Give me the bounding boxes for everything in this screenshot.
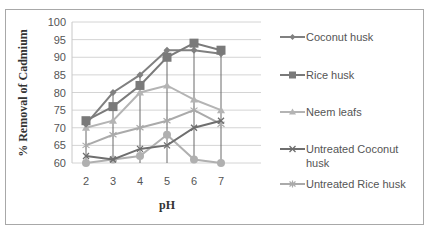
legend-item-neem-leafs: Neem leafs bbox=[280, 106, 362, 118]
series-lines bbox=[82, 39, 226, 167]
svg-text:Rice husk: Rice husk bbox=[306, 69, 355, 81]
y-axis-title: % Removal of Cadmium bbox=[16, 29, 30, 157]
svg-text:Untreated Coconut: Untreated Coconut bbox=[306, 143, 398, 155]
svg-text:husk: husk bbox=[306, 157, 330, 169]
square-marker-icon bbox=[82, 116, 91, 125]
y-tick-label: 75 bbox=[54, 104, 66, 116]
circle-marker-icon bbox=[136, 152, 144, 160]
legend: Coconut husk Rice husk Neem leafs Untrea… bbox=[280, 31, 406, 190]
legend-item-untreated-rice-husk: Untreated Rice husk bbox=[280, 178, 406, 190]
square-marker-icon bbox=[217, 46, 226, 55]
x-axis-ticks: 234567 bbox=[83, 175, 224, 187]
line-chart: 6065707580859095100 234567 pH % Removal … bbox=[0, 0, 431, 235]
circle-marker-icon bbox=[163, 131, 171, 139]
y-tick-label: 100 bbox=[48, 16, 66, 28]
square-marker-icon bbox=[136, 81, 145, 90]
legend-item-rice-husk: Rice husk bbox=[280, 69, 355, 81]
y-tick-label: 60 bbox=[54, 157, 66, 169]
x-tick-label: 4 bbox=[137, 175, 143, 187]
square-marker-icon bbox=[289, 72, 296, 79]
square-marker-icon bbox=[109, 102, 118, 111]
diamond-marker-icon bbox=[191, 47, 198, 54]
diamond-marker-icon bbox=[290, 34, 296, 40]
x-tick-label: 7 bbox=[218, 175, 224, 187]
y-tick-label: 90 bbox=[54, 51, 66, 63]
x-tick-label: 5 bbox=[164, 175, 170, 187]
series-unlabeled bbox=[82, 131, 225, 167]
legend-item-untreated-coconut-husk: Untreated Coconut husk bbox=[280, 143, 398, 169]
svg-text:Coconut husk: Coconut husk bbox=[306, 31, 374, 43]
legend-item-coconut-husk: Coconut husk bbox=[280, 31, 374, 43]
triangle-marker-icon bbox=[163, 81, 171, 88]
y-axis-ticks: 6065707580859095100 bbox=[48, 16, 66, 169]
y-tick-label: 70 bbox=[54, 122, 66, 134]
svg-text:Untreated Rice husk: Untreated Rice husk bbox=[306, 178, 406, 190]
x-tick-label: 3 bbox=[110, 175, 116, 187]
circle-marker-icon bbox=[217, 159, 225, 167]
circle-marker-icon bbox=[82, 159, 90, 167]
x-tick-label: 2 bbox=[83, 175, 89, 187]
y-tick-label: 65 bbox=[54, 139, 66, 151]
y-tick-label: 80 bbox=[54, 87, 66, 99]
circle-marker-icon bbox=[190, 155, 198, 163]
square-marker-icon bbox=[163, 53, 172, 62]
y-tick-label: 95 bbox=[54, 34, 66, 46]
square-marker-icon bbox=[190, 39, 199, 48]
svg-text:Neem leafs: Neem leafs bbox=[306, 106, 362, 118]
y-tick-label: 85 bbox=[54, 69, 66, 81]
x-axis-title: pH bbox=[159, 198, 176, 212]
x-tick-label: 6 bbox=[191, 175, 197, 187]
